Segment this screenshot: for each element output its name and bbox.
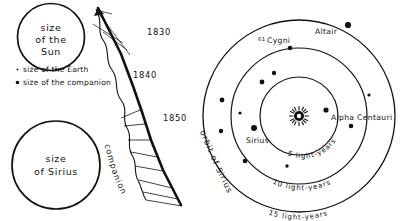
star-dot: [367, 93, 370, 96]
sun-starburst-icon: [290, 107, 309, 126]
ring-label-5-ly: 5 light-years: [287, 137, 338, 161]
star-dot: [219, 129, 223, 133]
sun-size-circle: size of the Sun: [18, 4, 85, 71]
companion-size-dot: [16, 81, 20, 85]
ring-label-15-ly-text: 15 light-years: [268, 209, 329, 221]
orbit-of-sirius-label-text: orbit of Sirius: [198, 129, 235, 195]
sirius-circle-line2: of Sirius: [34, 166, 78, 177]
sirius-circle-line1: size: [46, 153, 67, 164]
ring-label-15-ly: 15 light-years: [268, 209, 329, 221]
star-dot-sirius: [251, 125, 257, 131]
ring-label-5-ly-text: 5 light-years: [287, 137, 338, 161]
star-dot: [220, 98, 225, 103]
star-dot: [349, 124, 354, 129]
sun-circle-line2: of the: [35, 34, 66, 45]
earth-size-dot: [17, 69, 19, 71]
star-label-alpha-centauri: Alpha Centauri: [331, 113, 392, 122]
star-label-61-cygni: Cygni: [267, 36, 290, 45]
panel-orbit-diagram: 1830 1840 1850 orbit of Sirius companion: [93, 8, 235, 206]
star-dot: [238, 111, 241, 114]
star-dots: [219, 22, 371, 168]
star-dot: [260, 80, 265, 85]
sun-circle-line3: Sun: [41, 46, 61, 57]
companion-label: companion: [103, 143, 130, 196]
year-label-1850: 1850: [163, 113, 187, 123]
figure-canvas: size of the Sun size of the Earth size o…: [0, 0, 406, 221]
star-label-altair: Altair: [315, 27, 338, 36]
star-dot: [285, 164, 288, 167]
year-label-1840: 1840: [133, 70, 157, 80]
star-dot: [243, 159, 248, 164]
bullet-label-earth: size of the Earth: [23, 65, 89, 74]
bullet-label-companion: size of the companion: [23, 78, 111, 87]
sirius-size-circle: size of Sirius: [12, 121, 100, 209]
star-dot-alpha-centauri: [323, 107, 328, 112]
sun-circle-line1: size: [41, 22, 62, 33]
year-label-1830: 1830: [147, 27, 171, 37]
companion-label-text: companion: [103, 143, 130, 196]
star-label-sirius: Sirius: [246, 136, 269, 145]
star-dot: [272, 71, 276, 75]
panel-relative-sizes: size of the Sun size of the Earth size o…: [12, 4, 111, 210]
size-bullet-list: size of the Earth size of the companion: [16, 65, 111, 87]
star-dot-altair: [345, 22, 351, 28]
star-label-61-cygni-prefix: 61: [258, 36, 265, 42]
star-dot-61-cygni: [288, 46, 293, 51]
orbit-of-sirius-label: orbit of Sirius: [198, 129, 235, 195]
